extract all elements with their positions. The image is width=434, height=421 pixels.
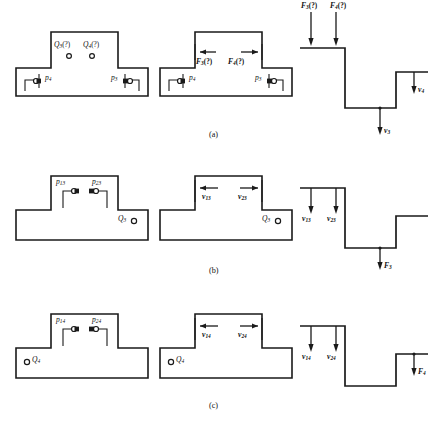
label-v14: v14 <box>202 331 211 339</box>
panel-a-left: Q3(?) Q4(?) p4 p3 <box>8 0 156 155</box>
label-p3-right: p3 <box>111 74 118 82</box>
panel-c-mid: v14 v24 Q4 <box>152 288 300 421</box>
label-F3-unknown: F3(?) <box>196 58 212 66</box>
panel-b-mid: v13 v23 Q3 <box>152 158 300 286</box>
label-F4-profile: F4 <box>418 368 426 376</box>
figure-row-a: Q3(?) Q4(?) p4 p3 <box>0 0 434 155</box>
label-v14-profile: v14 <box>302 353 311 361</box>
panel-a-right: F3(?) F4(?) v3 v4 <box>292 0 434 155</box>
label-p14: p14 <box>56 316 65 324</box>
panel-a-mid: F3(?) F4(?) p4 p3 <box>152 0 300 155</box>
caption-a: (a) <box>209 130 218 139</box>
label-F3-top: F3(?) <box>301 2 317 10</box>
label-v4: v4 <box>418 86 424 94</box>
figure-row-c: p14 p24 Q4 v14 <box>0 288 434 421</box>
label-Q3-mid: Q3 <box>262 215 270 223</box>
label-v13: v13 <box>202 193 211 201</box>
label-p23: p23 <box>92 178 101 186</box>
label-Q4-left: Q4 <box>32 356 40 364</box>
label-Q4-unknown: Q4(?) <box>83 41 99 49</box>
label-p3-right-mid: p3 <box>255 74 262 82</box>
label-p4-left-mid: p4 <box>189 74 196 82</box>
figure-row-b: p13 p23 Q3 v13 <box>0 158 434 286</box>
label-v24: v24 <box>238 331 247 339</box>
label-v3: v3 <box>384 127 390 135</box>
label-v13-profile: v13 <box>302 215 311 223</box>
label-v23: v23 <box>238 193 247 201</box>
caption-b: (b) <box>209 266 219 275</box>
panel-b-right: v13 v23 F3 <box>292 158 434 286</box>
panel-c-right: v14 v24 F4 <box>292 288 434 421</box>
label-p4-left: p4 <box>45 74 52 82</box>
label-v24-profile: v24 <box>327 353 336 361</box>
label-Q3-unknown: Q3(?) <box>54 41 70 49</box>
label-Q3-left: Q3 <box>118 215 126 223</box>
label-p13: p13 <box>56 178 65 186</box>
panel-b-left: p13 p23 Q3 <box>8 158 156 286</box>
caption-c: (c) <box>209 401 218 410</box>
label-F4-top: F4(?) <box>330 2 346 10</box>
panel-c-left: p14 p24 Q4 <box>8 288 156 421</box>
figure-superposition-diagram: Q3(?) Q4(?) p4 p3 <box>0 0 434 421</box>
label-F3-profile: F3 <box>384 262 392 270</box>
label-p24: p24 <box>92 316 101 324</box>
label-Q4-mid: Q4 <box>176 356 184 364</box>
label-v23-profile: v23 <box>327 215 336 223</box>
label-F4-unknown: F4(?) <box>228 58 244 66</box>
